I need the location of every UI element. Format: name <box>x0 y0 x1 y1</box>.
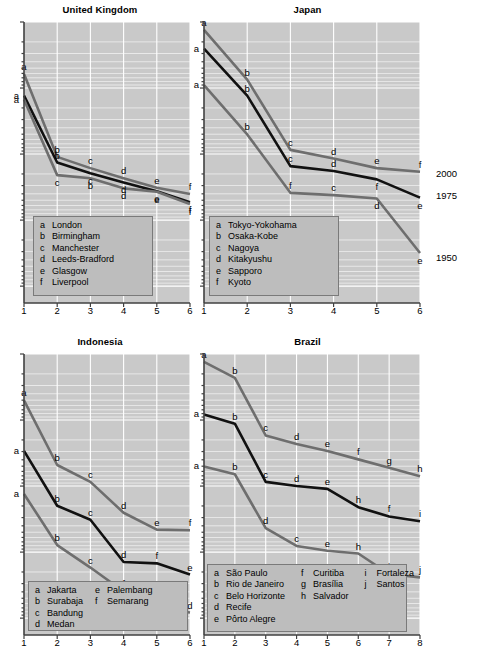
legend-label: London <box>52 220 84 231</box>
legend-key: g <box>301 579 313 590</box>
svg-text:f: f <box>189 206 192 217</box>
svg-text:j: j <box>418 564 421 575</box>
right-axis-label-2000: 2000 <box>436 168 457 179</box>
svg-text:e: e <box>417 255 422 266</box>
x-tick-label: 2 <box>245 305 250 316</box>
legend-label: Fortaleza <box>377 568 417 579</box>
svg-text:d: d <box>263 515 268 526</box>
figure-root: United Kingdom abcdefabcdefacbdef 123456… <box>0 0 484 663</box>
legend-column: ePalembangfSemarang <box>95 585 155 631</box>
svg-text:b: b <box>245 67 250 78</box>
svg-text:f: f <box>289 180 292 191</box>
svg-text:d: d <box>331 158 336 169</box>
svg-text:b: b <box>232 365 237 376</box>
svg-text:e: e <box>154 517 159 528</box>
svg-text:h: h <box>356 541 361 552</box>
svg-text:d: d <box>331 146 336 157</box>
panel-united-kingdom: United Kingdom abcdefabcdefacbdef 123456… <box>0 4 200 329</box>
legend-label: São Paulo <box>226 568 270 579</box>
svg-text:e: e <box>374 155 379 166</box>
legend-key: a <box>40 220 52 231</box>
legend-item: dLeeds-Bradford <box>40 254 116 265</box>
svg-text:b: b <box>55 493 60 504</box>
legend-key: e <box>40 266 52 277</box>
legend: aJakartabSurabajacBandungdMedanePalemban… <box>28 581 188 631</box>
x-tick-label: 1 <box>21 637 26 648</box>
legend-item: dMedan <box>35 619 85 630</box>
svg-text:a: a <box>194 43 200 54</box>
legend-label: Manchester <box>52 243 101 254</box>
x-tick-label: 1 <box>201 305 206 316</box>
legend-item: eSapporo <box>216 266 299 277</box>
svg-text:e: e <box>154 194 159 205</box>
svg-text:c: c <box>294 533 299 544</box>
legend-label: Glasgow <box>52 266 89 277</box>
svg-text:a: a <box>14 94 20 105</box>
x-tick-label: 1 <box>21 305 26 316</box>
svg-text:c: c <box>331 182 336 193</box>
x-tick-label: 4 <box>121 637 126 648</box>
x-tick-label: 2 <box>55 305 60 316</box>
legend-key: b <box>214 579 226 590</box>
svg-text:a: a <box>14 488 20 499</box>
svg-text:f: f <box>388 503 391 514</box>
svg-text:c: c <box>88 507 93 518</box>
legend-key: b <box>35 596 47 607</box>
svg-text:a: a <box>14 445 20 456</box>
legend-item: cNagoya <box>216 243 299 254</box>
svg-text:g: g <box>386 455 391 466</box>
panel-indonesia: Indonesia abcdefabcdfeabcfed 123456 aJak… <box>0 336 200 663</box>
legend-label: Sapporo <box>228 266 264 277</box>
svg-text:h: h <box>417 463 422 474</box>
legend-key: a <box>214 568 226 579</box>
legend-item: gBrasília <box>301 579 351 590</box>
x-tick-label: 4 <box>331 305 336 316</box>
svg-text:c: c <box>288 153 293 164</box>
svg-text:c: c <box>263 469 268 480</box>
x-tick-label: 3 <box>88 305 93 316</box>
legend-key: d <box>216 254 228 265</box>
legend-label: Kitakyushu <box>228 254 274 265</box>
svg-text:d: d <box>121 165 126 176</box>
svg-text:e: e <box>187 562 192 573</box>
panel-title: Indonesia <box>0 336 200 347</box>
svg-text:f: f <box>419 159 422 170</box>
x-tick-label: 6 <box>417 305 422 316</box>
svg-text:h: h <box>356 494 361 505</box>
legend-key: f <box>95 596 107 607</box>
panel-title: United Kingdom <box>0 4 200 15</box>
legend-key: e <box>95 585 107 596</box>
legend-item: jSantos <box>365 579 417 590</box>
x-tick-label: 8 <box>417 637 422 648</box>
legend-key: i <box>365 568 377 579</box>
legend-column: aJakartabSurabajacBandungdMedan <box>35 585 85 631</box>
svg-text:d: d <box>121 549 126 560</box>
x-tick-label: 6 <box>187 637 192 648</box>
legend-column: aSão PaulobRio de JaneirocBelo Horizonte… <box>214 568 287 625</box>
legend-key: f <box>40 277 52 288</box>
right-axis-label-1975: 1975 <box>436 190 457 201</box>
legend-label: Kyoto <box>228 277 253 288</box>
legend-item: cManchester <box>40 243 116 254</box>
svg-text:f: f <box>375 181 378 192</box>
svg-text:d: d <box>187 600 192 611</box>
svg-text:f: f <box>189 181 192 192</box>
svg-text:c: c <box>55 177 60 188</box>
legend-item: dKitakyushu <box>216 254 299 265</box>
x-tick-label: 5 <box>325 637 330 648</box>
legend-key: f <box>216 277 228 288</box>
svg-text:b: b <box>55 452 60 463</box>
svg-text:b: b <box>88 180 93 191</box>
right-axis-label-1950: 1950 <box>436 252 457 263</box>
x-tick-label: 7 <box>386 637 391 648</box>
legend-label: Birmingham <box>52 231 102 242</box>
x-tick-label: 6 <box>356 637 361 648</box>
x-tick-label: 2 <box>55 637 60 648</box>
legend-column: aLondonbBirminghamcManchesterdLeeds-Brad… <box>40 220 116 288</box>
legend-columns: aJakartabSurabajacBandungdMedanePalemban… <box>29 582 187 634</box>
legend-label: Curitiba <box>313 568 346 579</box>
legend-label: Jakarta <box>47 585 79 596</box>
legend-key: h <box>301 591 313 602</box>
legend-item: iFortaleza <box>365 568 417 579</box>
legend-label: Palembang <box>107 585 155 596</box>
